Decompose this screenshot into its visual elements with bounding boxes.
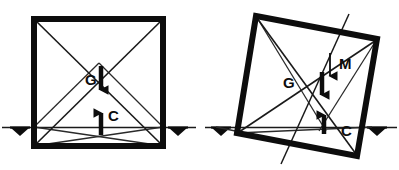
upright-block-panel: G C: [2, 19, 196, 146]
diagonals-tilted: [239, 18, 375, 154]
diagonal-tr-bl: [239, 41, 375, 132]
support-right-tilted: [367, 126, 387, 136]
diagonals-upright: [35, 20, 162, 145]
force-C-label-upright: C: [108, 107, 119, 124]
force-C-label-tilted: C: [341, 122, 352, 139]
force-C-upright: C: [101, 107, 119, 135]
fan-lines-upright: [34, 63, 163, 146]
force-M-label-tilted: M: [339, 55, 352, 72]
support-right-upright: [168, 126, 188, 136]
force-G-label-tilted: G: [283, 74, 295, 91]
support-left-upright: [10, 126, 30, 136]
technical-figure: G C: [0, 0, 399, 170]
figure-canvas: G C: [0, 0, 399, 170]
tilted-block-panel: M G C: [205, 14, 397, 164]
force-M-tilted: M: [330, 53, 352, 76]
force-G-label-upright: G: [85, 71, 97, 88]
